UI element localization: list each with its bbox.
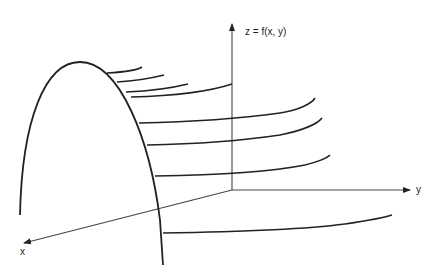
cross-section-curve [107, 67, 142, 73]
x-axis [24, 190, 232, 243]
x-axis-label: x [20, 246, 25, 257]
z-axis-label: z = f(x, y) [245, 26, 286, 37]
cross-section-curve [155, 155, 330, 176]
y-axis-label: y [416, 184, 421, 195]
boundary-curve [20, 62, 163, 265]
surface-diagram [0, 0, 441, 278]
cross-section-curve [139, 98, 315, 123]
cross-section-curve [126, 84, 188, 92]
cross-section-curve [117, 75, 164, 82]
cross-section-curve [163, 215, 392, 233]
